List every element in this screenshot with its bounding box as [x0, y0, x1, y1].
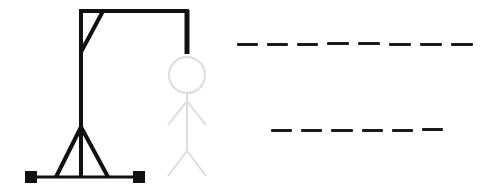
letter-blank	[422, 128, 443, 131]
word-blanks-1	[237, 43, 473, 46]
gallows-left-leg	[56, 127, 81, 177]
letter-blank	[297, 43, 318, 46]
letter-blank	[271, 129, 292, 132]
figure-head	[169, 57, 205, 93]
figure-left-arm	[168, 101, 187, 125]
gallows-brace	[81, 11, 103, 52]
hangman-board	[0, 0, 488, 185]
figure-right-arm	[187, 101, 206, 125]
word-blanks-2	[271, 129, 443, 132]
figure-right-leg	[187, 151, 206, 176]
letter-blank	[392, 129, 413, 132]
figure-left-leg	[168, 151, 187, 176]
letter-blank	[358, 42, 380, 45]
letter-blank	[331, 129, 353, 132]
gallows-left-foot	[25, 171, 37, 183]
letter-blank	[420, 43, 442, 46]
gallows	[25, 10, 189, 183]
letter-blank	[237, 43, 258, 46]
letter-blank	[362, 129, 383, 132]
letter-blank	[451, 43, 473, 46]
letter-blank	[301, 129, 322, 132]
gallows-right-foot	[133, 171, 145, 183]
letter-blank	[327, 42, 349, 45]
gallows-right-leg	[81, 127, 108, 177]
letter-blank	[389, 43, 411, 46]
stick-figure	[168, 57, 206, 176]
letter-blank	[267, 43, 288, 46]
